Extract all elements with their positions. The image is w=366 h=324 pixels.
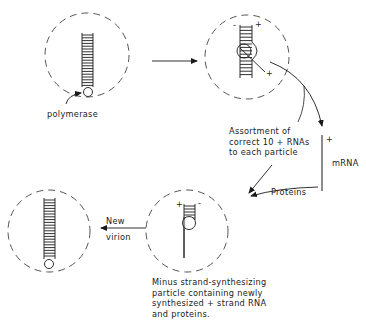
assortment-line-3: to each particle [229, 147, 310, 158]
assortment-line-1: Assortment of [229, 126, 310, 137]
branch-curve [298, 86, 304, 122]
new-virion-line-1: New [106, 216, 131, 227]
nascent-mrna-strand [240, 48, 265, 72]
new-virion-label: New virion [106, 216, 131, 242]
p4-minus-sign: - [198, 200, 201, 208]
particle-virion [45, 13, 129, 104]
polymerase-icon [45, 260, 54, 269]
assortment-label: Assortment of correct 10 + RNAs to each … [229, 126, 310, 158]
polymerase-pointer-arrow [66, 93, 81, 104]
dsrna-ladder [82, 33, 93, 87]
arrow-to-mrna [270, 62, 322, 126]
p2-tail-plus-sign: + [266, 70, 273, 78]
minus-strand-line-2: particle containing newly [152, 288, 267, 299]
minus-strand-line-1: Minus strand-synthesizing [152, 277, 267, 288]
mrna-plus-sign: + [326, 136, 333, 144]
polymerase-icon [84, 88, 93, 97]
particle-transcribing [205, 15, 289, 99]
polymerase-label: polymerase [47, 109, 98, 120]
proteins-label: Proteins [271, 187, 306, 198]
minus-strand-line-4: and proteins. [152, 309, 267, 320]
mrna-label: mRNA [332, 158, 359, 169]
minus-strand-label: Minus strand-synthesizing particle conta… [152, 277, 267, 319]
p2-minus-sign: - [233, 22, 236, 30]
particle-minus-strand-synthesizing [146, 190, 228, 272]
p2-plus-sign: + [255, 21, 262, 29]
minus-strand-line-3: synthesized + strand RNA [152, 298, 267, 309]
p4-plus-sign: + [176, 201, 183, 209]
replication-diagram [0, 0, 366, 324]
assortment-line-2: correct 10 + RNAs [229, 137, 310, 148]
particle-new-virion [8, 190, 90, 272]
new-virion-line-2: virion [106, 232, 131, 243]
assortment-arrow [249, 165, 272, 193]
